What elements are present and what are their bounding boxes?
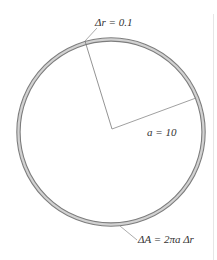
radius-line-top [85, 41, 112, 129]
delta-r-text: Δr = 0.1 [95, 16, 132, 28]
delta-area-label: ΔA = 2πa Δr [138, 233, 194, 245]
delta-a-leader [120, 226, 137, 240]
radius-text: a = 10 [147, 126, 176, 138]
delta-r-label: Δr = 0.1 [95, 16, 132, 28]
radius-line-right [112, 98, 196, 129]
ring-diagram [0, 0, 217, 260]
radius-label: a = 10 [147, 126, 176, 138]
delta-area-text: ΔA = 2πa Δr [138, 233, 194, 245]
annulus-ring [17, 38, 205, 226]
